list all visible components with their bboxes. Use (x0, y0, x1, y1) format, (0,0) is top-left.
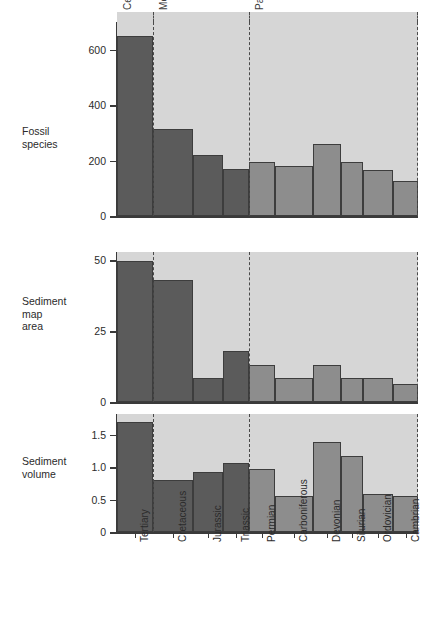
x-category-label-triassic: Triassic (240, 508, 251, 542)
plot-area-1 (117, 22, 418, 216)
bar-carboniferous (275, 166, 313, 216)
plot-area-2 (117, 252, 418, 402)
era-divider-1-panel-2 (153, 252, 154, 402)
bar-permian (249, 365, 275, 402)
y-tick-label-panel-2-1: 25 (94, 325, 106, 337)
bar-jurassic (193, 378, 223, 402)
y-tick-panel-1-2 (110, 105, 116, 107)
bar-cambrian (393, 181, 418, 216)
y-tick-panel-1-0 (110, 216, 116, 218)
x-axis-line-panel-2 (117, 402, 418, 404)
bar-triassic (223, 169, 249, 216)
bar-cretaceous (153, 280, 193, 402)
x-category-label-carboniferous: Carboniferous (298, 479, 309, 542)
panel-row-label-2: Sediment map area (22, 295, 66, 333)
x-category-label-cambrian: Cambrian (410, 499, 421, 542)
x-tick-permian (262, 533, 263, 538)
era-divider-1-panel-1 (153, 22, 154, 216)
bar-ordovician (363, 170, 393, 216)
x-tick-devonian (327, 533, 328, 538)
x-tick-cretaceous (173, 533, 174, 538)
y-tick-label-panel-1-0: 0 (100, 210, 106, 222)
chart-panel-2 (117, 252, 418, 402)
y-tick-panel-1-1 (110, 161, 116, 163)
bar-silurian (341, 162, 363, 216)
y-tick-label-panel-3-3: 1.5 (91, 429, 106, 441)
bar-triassic (223, 351, 249, 402)
bar-ordovician (363, 378, 393, 402)
era-label-paleozoic: Paleozoic (254, 0, 265, 10)
panel-row-label-1: Fossil species (22, 125, 58, 150)
y-tick-label-panel-3-0: 0 (100, 526, 106, 538)
y-tick-panel-3-1 (110, 500, 116, 502)
y-tick-label-panel-3-2: 1.0 (91, 461, 106, 473)
bar-carboniferous (275, 378, 313, 402)
panel-row-label-3: Sediment volume (22, 455, 66, 480)
y-tick-panel-1-3 (110, 50, 116, 52)
era-divider-1-panel-3 (153, 414, 154, 532)
era-divider-band-end (417, 12, 418, 22)
x-category-label-jurassic: Jurassic (212, 505, 223, 542)
chart-panel-1 (117, 22, 418, 216)
y-axis-line-panel-2 (116, 252, 118, 404)
x-tick-ordovician (378, 533, 379, 538)
y-axis-line-panel-3 (116, 414, 118, 534)
x-tick-triassic (236, 533, 237, 538)
y-tick-panel-3-3 (110, 435, 116, 437)
era-divider-band-2 (249, 12, 250, 22)
era-divider-end-panel-2 (417, 252, 418, 402)
era-label-mesozoic: Mesozoic (158, 0, 169, 10)
era-divider-2-panel-1 (249, 22, 250, 216)
x-category-label-cretaceous: Cretaceous (177, 491, 188, 542)
x-category-label-permian: Permian (266, 505, 277, 542)
y-axis-line-panel-1 (116, 22, 118, 218)
era-divider-end-panel-1 (417, 22, 418, 216)
x-category-label-devonian: Devonian (331, 500, 342, 542)
x-category-label-ordovician: Ordovician (382, 494, 393, 542)
bar-permian (249, 162, 275, 216)
x-axis-line-panel-1 (117, 216, 418, 218)
x-tick-silurian (352, 533, 353, 538)
bar-cambrian (393, 384, 418, 402)
x-tick-jurassic (208, 533, 209, 538)
era-band (117, 12, 418, 22)
era-divider-2-panel-2 (249, 252, 250, 402)
bar-tertiary (117, 36, 153, 216)
x-tick-cambrian (406, 533, 407, 538)
bar-jurassic (193, 155, 223, 216)
x-category-label-silurian: Silurian (356, 509, 367, 542)
x-tick-carboniferous (294, 533, 295, 538)
y-tick-label-panel-1-3: 600 (88, 44, 106, 56)
y-tick-label-panel-1-2: 400 (88, 99, 106, 111)
bar-tertiary (117, 261, 153, 403)
fossil-sediment-figure: 0200400600Fossil species02550Sediment ma… (0, 0, 436, 620)
y-tick-label-panel-3-1: 0.5 (91, 494, 106, 506)
x-category-label-tertiary: Tertiary (139, 509, 150, 542)
y-tick-panel-2-2 (110, 260, 116, 262)
x-tick-tertiary (135, 533, 136, 538)
era-label-cenozoic: Cenozoic (122, 0, 133, 10)
bar-devonian (313, 144, 341, 216)
y-tick-label-panel-1-1: 200 (88, 155, 106, 167)
y-tick-label-panel-2-2: 50 (94, 254, 106, 266)
y-tick-panel-3-2 (110, 467, 116, 469)
y-tick-panel-3-0 (110, 532, 116, 534)
y-tick-panel-2-0 (110, 402, 116, 404)
y-tick-panel-2-1 (110, 331, 116, 333)
bar-devonian (313, 365, 341, 402)
y-tick-label-panel-2-0: 0 (100, 396, 106, 408)
bar-silurian (341, 378, 363, 402)
bar-cretaceous (153, 129, 193, 216)
era-divider-band-1 (153, 12, 154, 22)
